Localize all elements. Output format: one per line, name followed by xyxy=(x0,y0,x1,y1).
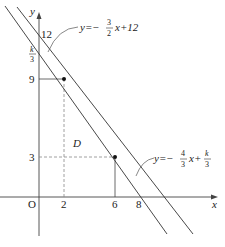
eq1-slope-num: 3 xyxy=(107,18,111,27)
y-tick-k3-numerator: k xyxy=(30,45,34,54)
leader-line-2 xyxy=(136,158,154,176)
x-axis-label: x xyxy=(211,198,217,210)
leader-line-1 xyxy=(48,27,78,52)
eq1-slope-den: 2 xyxy=(107,29,111,38)
y-tick-k3-denominator: 3 xyxy=(30,55,34,64)
y-tick-12: 12 xyxy=(41,28,52,40)
eq2-prefix: y=− xyxy=(153,152,174,164)
eq2-intercept-den: 3 xyxy=(205,160,209,169)
y-axis-label: y xyxy=(29,5,35,17)
eq1-suffix: x+12 xyxy=(114,21,139,33)
x-tick-2: 2 xyxy=(61,198,67,210)
y-tick-9: 9 xyxy=(29,73,35,85)
eq2-mid: x+ xyxy=(188,152,201,164)
point-2-9 xyxy=(62,77,66,81)
eq2-intercept-num: k xyxy=(205,149,209,158)
origin-label: O xyxy=(28,198,36,210)
x-tick-8: 8 xyxy=(136,198,142,210)
region-label: D xyxy=(72,137,81,149)
eq2-slope-num: 4 xyxy=(181,149,185,158)
y-axis-arrow-icon xyxy=(37,12,42,19)
point-6-3 xyxy=(113,155,117,159)
line-2 xyxy=(17,7,193,234)
x-tick-6: 6 xyxy=(112,198,118,210)
eq2-slope-den: 3 xyxy=(181,160,185,169)
coordinate-diagram: y x O 2 6 8 3 9 12 k 3 D y=− 3 2 x+12 y=… xyxy=(0,0,225,247)
y-tick-3: 3 xyxy=(29,151,35,163)
eq1-prefix: y=− xyxy=(79,21,100,33)
